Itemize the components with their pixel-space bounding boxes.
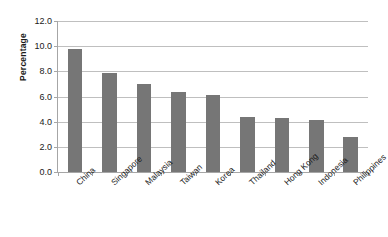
bar-slot bbox=[265, 21, 299, 172]
bar-slot bbox=[196, 21, 230, 172]
y-tick-label: 4.0 bbox=[39, 117, 52, 127]
bar-slot bbox=[127, 21, 161, 172]
bar-slot bbox=[230, 21, 264, 172]
y-tick-label: 6.0 bbox=[39, 92, 52, 102]
bar bbox=[343, 137, 357, 172]
bar-slot bbox=[299, 21, 333, 172]
bar-slot bbox=[161, 21, 195, 172]
x-axis-labels: ChinaSingaporeMalaysiaTaiwanKoreaThailan… bbox=[57, 173, 368, 237]
bar-slot bbox=[58, 21, 92, 172]
bar bbox=[68, 49, 82, 172]
y-tick-label: 8.0 bbox=[39, 66, 52, 76]
bar bbox=[206, 95, 220, 172]
bar-series bbox=[58, 21, 368, 172]
bar bbox=[240, 117, 254, 172]
y-tick-label: 12.0 bbox=[34, 16, 52, 26]
y-axis-title: Percentage bbox=[18, 12, 28, 102]
bar bbox=[171, 92, 185, 172]
y-tick-label: 0.0 bbox=[39, 167, 52, 177]
bar-slot bbox=[92, 21, 126, 172]
y-tick-label: 10.0 bbox=[34, 41, 52, 51]
y-tick-label: 2.0 bbox=[39, 142, 52, 152]
plot-area: 0.02.04.06.08.010.012.0 bbox=[57, 21, 368, 173]
bar-slot bbox=[334, 21, 368, 172]
bar bbox=[102, 73, 116, 172]
